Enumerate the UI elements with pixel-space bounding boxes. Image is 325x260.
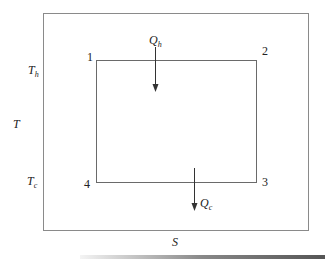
state-4-label: 4 — [84, 178, 90, 190]
qh-label: Qh — [149, 34, 162, 49]
cycle-rectangle — [97, 61, 257, 183]
qh-arrow-icon — [153, 47, 159, 92]
th-label: Th — [28, 64, 39, 79]
state-2-label: 2 — [262, 45, 268, 57]
y-axis-label: T — [13, 118, 20, 130]
page-edge-shadow — [80, 255, 325, 259]
tc-label: Tc — [27, 175, 37, 190]
qc-arrow-icon — [192, 168, 198, 211]
state-1-label: 1 — [87, 51, 93, 63]
x-axis-label: S — [172, 236, 178, 248]
diagram-canvas — [0, 0, 325, 260]
axes-frame — [44, 14, 309, 231]
state-3-label: 3 — [262, 176, 268, 188]
qc-label: Qc — [200, 197, 212, 212]
